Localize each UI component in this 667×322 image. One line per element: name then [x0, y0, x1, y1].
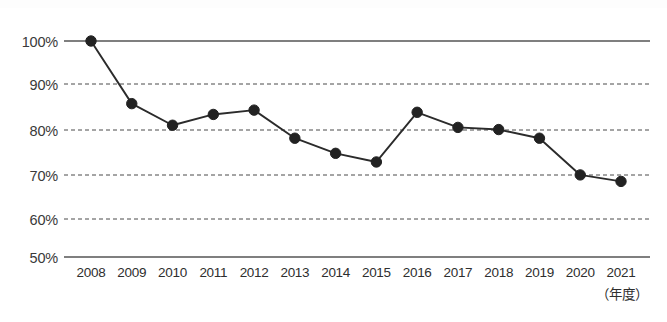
data-point-markers [86, 36, 626, 187]
x-tick-label-2014: 2014 [321, 265, 351, 280]
line-chart: 100% 90% 80% 70% 60% 50% 200820092010201… [0, 0, 667, 322]
data-point-2009 [127, 98, 137, 108]
data-point-2017 [453, 122, 463, 132]
y-tick-label-80: 80% [30, 123, 59, 139]
x-axis-labels: 2008200920102011201220132014201520162017… [77, 265, 636, 280]
data-point-2016 [412, 107, 422, 117]
x-tick-label-2020: 2020 [566, 265, 595, 280]
data-point-2010 [167, 120, 177, 130]
gridlines [64, 84, 650, 219]
x-tick-label-2019: 2019 [525, 265, 554, 280]
x-tick-label-2011: 2011 [199, 265, 227, 280]
chart-plot-area: 100% 90% 80% 70% 60% 50% 200820092010201… [0, 0, 667, 322]
data-point-2012 [249, 105, 259, 115]
y-axis-labels: 100% 90% 80% 70% 60% 50% [22, 34, 59, 266]
y-tick-label-100: 100% [22, 34, 59, 50]
y-tick-label-70: 70% [30, 168, 59, 184]
x-tick-label-2010: 2010 [158, 265, 187, 280]
y-tick-label-50: 50% [30, 250, 59, 266]
data-point-2011 [208, 109, 218, 119]
x-tick-label-2013: 2013 [280, 265, 309, 280]
x-tick-label-2017: 2017 [443, 265, 472, 280]
x-tick-label-2021: 2021 [607, 265, 636, 280]
data-point-2019 [534, 133, 544, 143]
x-tick-label-2015: 2015 [362, 265, 391, 280]
data-point-2013 [290, 133, 300, 143]
y-tick-label-60: 60% [30, 212, 59, 228]
x-tick-label-2009: 2009 [117, 265, 146, 280]
data-point-2015 [371, 157, 381, 167]
data-point-2014 [330, 148, 340, 158]
data-series-line [91, 41, 621, 181]
data-point-2008 [86, 36, 96, 46]
x-tick-label-2016: 2016 [403, 265, 432, 280]
data-point-2018 [493, 124, 503, 134]
x-axis-unit-label: （年度） [596, 287, 648, 302]
x-tick-label-2008: 2008 [77, 265, 106, 280]
data-point-2020 [575, 170, 585, 180]
x-tick-label-2012: 2012 [240, 265, 269, 280]
data-point-2021 [616, 176, 626, 186]
x-tick-label-2018: 2018 [484, 265, 513, 280]
y-tick-label-90: 90% [30, 77, 59, 93]
